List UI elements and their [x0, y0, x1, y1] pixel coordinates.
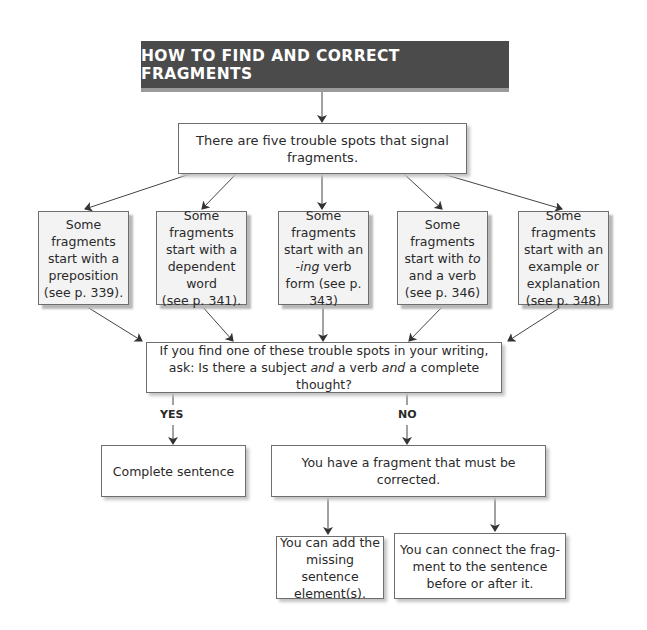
- question-text: If you find one of these trouble spots i…: [150, 342, 498, 393]
- add-element-text: You can add the missing sentence element…: [280, 534, 380, 602]
- intro-box: There are five trouble spots that signal…: [178, 123, 467, 174]
- connect-fragment-text: You can connect the frag-ment to the sen…: [398, 541, 562, 592]
- trouble-spot-preposition: Some fragments start with a preposition …: [38, 211, 129, 305]
- flowchart-title: HOW TO FIND AND CORRECT FRAGMENTS: [141, 41, 509, 88]
- complete-sentence-box: Complete sentence: [101, 445, 246, 497]
- fragment-text: You have a fragment that must be correct…: [275, 454, 542, 488]
- trouble-spot-text: Some fragments start with a preposition …: [42, 216, 125, 301]
- trouble-spot-to-verb: Some fragments start with to and a verb …: [397, 211, 488, 305]
- trouble-spot-text: Some fragments start with an example or …: [522, 207, 605, 309]
- fragment-box: You have a fragment that must be correct…: [271, 445, 546, 497]
- trouble-spot-dependent-word: Some fragments start with a dependent wo…: [156, 211, 247, 305]
- trouble-spot-text: Some fragments start with to and a verb …: [401, 216, 484, 301]
- trouble-spot-ing-verb: Some fragments start with an -ing verb f…: [278, 211, 369, 305]
- add-element-box: You can add the missing sentence element…: [276, 536, 384, 599]
- yes-label: YES: [160, 408, 183, 421]
- trouble-spot-text: Some fragments start with an -ing verb f…: [282, 207, 365, 309]
- trouble-spot-text: Some fragments start with a dependent wo…: [160, 207, 243, 309]
- intro-text: There are five trouble spots that signal…: [182, 132, 463, 166]
- no-label: NO: [398, 408, 417, 421]
- trouble-spot-example: Some fragments start with an example or …: [518, 211, 609, 305]
- connect-fragment-box: You can connect the frag-ment to the sen…: [394, 533, 566, 599]
- question-box: If you find one of these trouble spots i…: [146, 342, 502, 393]
- complete-sentence-text: Complete sentence: [113, 463, 234, 480]
